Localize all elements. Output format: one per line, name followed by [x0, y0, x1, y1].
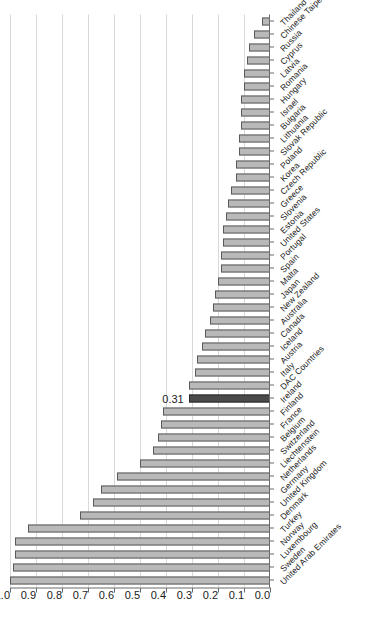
category-axis-tick — [270, 124, 274, 125]
bar-item — [10, 301, 270, 314]
value-axis-tick — [114, 587, 115, 592]
bar-item — [10, 92, 270, 105]
category-axis-tick — [270, 371, 274, 372]
bar-value-label: 0.31 — [163, 392, 184, 404]
category-axis-tick — [270, 306, 274, 307]
bar — [202, 342, 270, 350]
bar — [236, 173, 270, 181]
value-axis-tick-label: 0.1 — [229, 589, 244, 601]
category-axis-tick — [270, 267, 274, 268]
bar — [93, 498, 270, 506]
bar — [221, 264, 270, 272]
category-axis-tick — [270, 423, 274, 424]
bar-highlighted — [189, 394, 270, 402]
bar-item — [10, 457, 270, 470]
category-axis-tick — [270, 202, 274, 203]
bar — [158, 433, 270, 441]
bar-item: 0.31 — [10, 392, 270, 405]
category-axis-tick — [270, 580, 274, 581]
bar — [210, 316, 270, 324]
value-axis-tick-label: 0.7 — [73, 589, 88, 601]
category-axis-tick — [270, 189, 274, 190]
bar — [218, 277, 270, 285]
bar-item — [10, 144, 270, 157]
bar — [101, 485, 270, 493]
bar-item — [10, 431, 270, 444]
bar-item — [10, 353, 270, 366]
bar-item — [10, 509, 270, 522]
value-axis-tick — [10, 587, 11, 592]
value-axis-tick-label: 1.0 — [0, 589, 10, 601]
category-axis-tick — [270, 501, 274, 502]
bar — [254, 30, 270, 38]
bar — [189, 381, 270, 389]
category-axis-tick — [270, 397, 274, 398]
category-axis-tick — [270, 514, 274, 515]
bar — [13, 563, 270, 571]
category-axis-tick — [270, 98, 274, 99]
bar-item — [10, 444, 270, 457]
bar-item — [10, 483, 270, 496]
bar-item — [10, 379, 270, 392]
category-axis-tick — [270, 345, 274, 346]
category-axis-tick — [270, 280, 274, 281]
bar — [228, 199, 270, 207]
category-axis-tick — [270, 475, 274, 476]
value-axis-tick — [192, 587, 193, 592]
bar — [28, 524, 270, 532]
bar-item — [10, 40, 270, 53]
plot-area: 0.31 — [10, 14, 270, 587]
category-axis-tick — [270, 85, 274, 86]
value-axis-tick — [88, 587, 89, 592]
bar — [161, 420, 270, 428]
bar-item — [10, 535, 270, 548]
bar — [15, 537, 270, 545]
value-axis-tick-label: 0.3 — [177, 589, 192, 601]
bar — [223, 238, 270, 246]
bar — [80, 511, 270, 519]
bar-item — [10, 184, 270, 197]
category-axis-tick — [270, 436, 274, 437]
bar-item — [10, 14, 270, 27]
value-axis-tick-label: 0.4 — [151, 589, 166, 601]
bar — [163, 407, 270, 415]
value-axis-tick-label: 0.0 — [255, 589, 270, 601]
value-axis-tick-label: 0.6 — [99, 589, 114, 601]
bar-item — [10, 171, 270, 184]
category-axis-tick — [270, 215, 274, 216]
category-axis-tick — [270, 111, 274, 112]
bar-item — [10, 548, 270, 561]
bar — [153, 446, 270, 454]
bar-series: 0.31 — [10, 14, 270, 587]
bar-item — [10, 288, 270, 301]
category-axis-tick — [270, 46, 274, 47]
bar-item — [10, 131, 270, 144]
bar — [244, 82, 270, 90]
category-axis-labels: United Arab EmiratesSwedenLuxembourgNorw… — [276, 14, 372, 587]
category-axis-tick — [270, 384, 274, 385]
value-axis-tick — [218, 587, 219, 592]
bar-item — [10, 275, 270, 288]
value-axis-tick-label: 0.9 — [21, 589, 36, 601]
bar — [226, 212, 270, 220]
category-axis-tick — [270, 150, 274, 151]
value-axis: 0.00.10.20.30.40.50.60.70.80.91.0 — [10, 587, 270, 639]
value-axis-tick — [244, 587, 245, 592]
bar-item — [10, 210, 270, 223]
bar-item — [10, 418, 270, 431]
value-axis-tick-label: 0.2 — [203, 589, 218, 601]
bar — [249, 43, 270, 51]
value-axis-tick — [62, 587, 63, 592]
bar — [195, 368, 270, 376]
bar-item — [10, 79, 270, 92]
bar-item — [10, 340, 270, 353]
bar — [247, 56, 270, 64]
bar — [241, 108, 270, 116]
category-axis-tick — [270, 241, 274, 242]
bar-item — [10, 262, 270, 275]
bar — [205, 329, 270, 337]
bar-item — [10, 470, 270, 483]
bar — [236, 160, 270, 168]
bar — [241, 121, 270, 129]
bar-item — [10, 496, 270, 509]
